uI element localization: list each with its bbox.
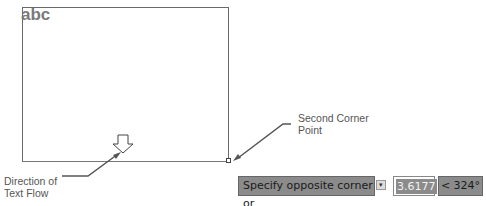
dynamic-input-prompt: Specify opposite corner or <box>238 176 375 196</box>
label-line: Direction of <box>4 175 57 187</box>
down-arrow-options-icon[interactable]: ▾ <box>376 180 386 190</box>
second-corner-label: Second Corner Point <box>298 112 369 136</box>
angle-input[interactable]: < 324° <box>438 176 483 196</box>
label-line: Point <box>298 124 369 136</box>
text-flow-arrow-icon <box>113 135 133 153</box>
text-flow-label: Direction of Text Flow <box>4 175 57 199</box>
distance-input[interactable]: 3.6177 <box>393 176 435 196</box>
distance-value: 3.6177 <box>396 179 437 194</box>
label-line: Text Flow <box>4 187 57 199</box>
label-line: Second Corner <box>298 112 369 124</box>
